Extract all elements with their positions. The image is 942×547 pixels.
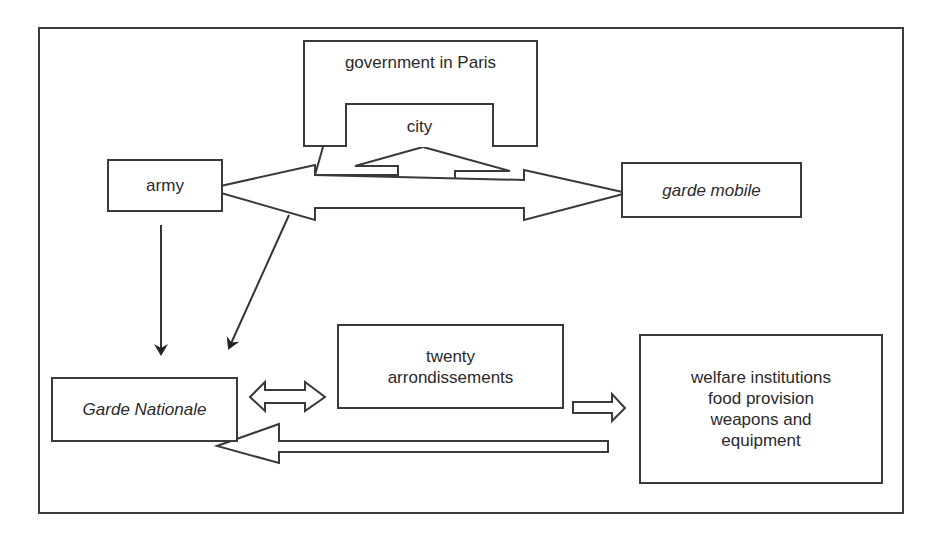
welfare-line-3: weapons and [710,409,811,430]
welfare-line-4: equipment [721,430,800,451]
welfare-node: welfare institutions food provision weap… [639,334,883,484]
welfare-gn-arrow [217,424,608,463]
government-label: government in Paris [345,52,496,73]
garde-nationale-label: Garde Nationale [83,399,207,420]
gn-twenty-double-arrow [250,382,325,411]
army-mobile-double-arrow [207,165,627,220]
arrow-gn-line [229,215,289,348]
city-label: city [407,116,433,137]
city-node: city [345,103,494,147]
twenty-label-line-2: arrondissements [388,367,514,388]
garde-nationale-node: Garde Nationale [51,377,238,442]
twenty-arrondissements-node: twenty arrondissements [337,324,564,409]
city-left-arrow [315,147,423,175]
city-right-arrow [423,147,524,180]
army-label: army [146,175,184,196]
twenty-welfare-arrow [573,394,625,421]
garde-mobile-label: garde mobile [662,180,760,201]
welfare-line-2: food provision [708,388,814,409]
welfare-line-1: welfare institutions [691,367,831,388]
army-node: army [107,159,223,212]
twenty-label-line-1: twenty [426,346,475,367]
garde-mobile-node: garde mobile [621,162,802,218]
